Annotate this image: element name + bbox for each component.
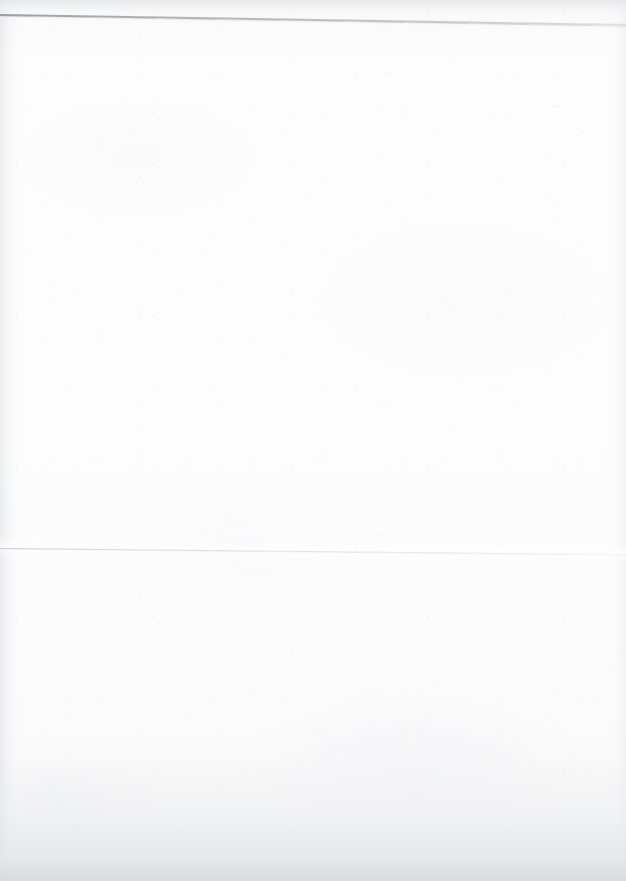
scanned-page bbox=[0, 0, 626, 881]
paper-grain-texture bbox=[0, 0, 626, 881]
